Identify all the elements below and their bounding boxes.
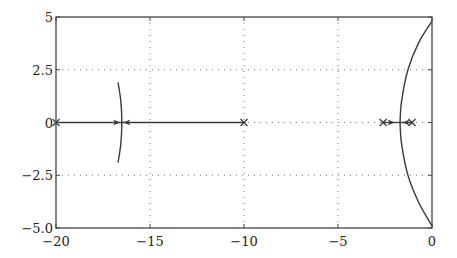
root-locus-chart: −20−15−10−50 52.50−2.5−5.0 xyxy=(0,0,457,258)
y-tick-label: 0 xyxy=(45,116,53,131)
x-tick-label: −5 xyxy=(328,234,347,249)
x-axis-ticks: −20−15−10−50 xyxy=(42,17,436,249)
locus-branch xyxy=(400,123,432,226)
x-tick-label: −10 xyxy=(230,234,257,249)
y-tick-label: 2.5 xyxy=(32,63,53,78)
locus-branches xyxy=(56,21,432,226)
y-tick-label: 5 xyxy=(45,10,53,25)
x-tick-label: −15 xyxy=(136,234,163,249)
y-tick-label: −5.0 xyxy=(21,221,53,236)
y-tick-label: −2.5 xyxy=(21,168,53,183)
locus-branch xyxy=(400,21,432,122)
x-tick-label: 0 xyxy=(428,234,436,249)
x-tick-label: −20 xyxy=(42,234,69,249)
